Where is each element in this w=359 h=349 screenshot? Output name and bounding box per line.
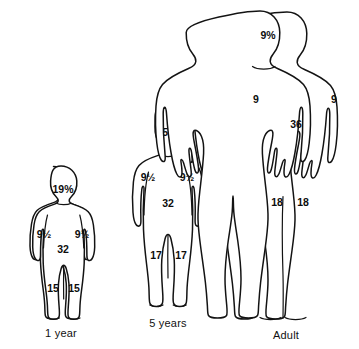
infant-arm-left-label: 9½ bbox=[75, 228, 90, 240]
child-trunk-label: 32 bbox=[162, 197, 174, 209]
infant-leg-right-label: 15 bbox=[47, 282, 59, 294]
child-arm-right-label: 9½ bbox=[141, 171, 156, 183]
infant-caption: 1 year bbox=[45, 327, 77, 339]
adult-head-label: 9% bbox=[260, 29, 276, 41]
infant-head-label: 19% bbox=[52, 183, 74, 195]
adult-arm-left-label: 9 bbox=[331, 93, 337, 105]
infant-leg-left-label: 15 bbox=[68, 282, 80, 294]
bsa-diagram-canvas: 19% 9½ 9½ 32 15 15 1 year 15% 9½ 9½ 32 1… bbox=[0, 0, 359, 349]
adult-trunk-label: 36 bbox=[290, 118, 302, 130]
infant-trunk-label: 32 bbox=[57, 243, 69, 255]
child-caption: 5 years bbox=[149, 317, 187, 329]
adult-arm-right-label: 9 bbox=[253, 93, 259, 105]
adult-leg-right-label: 18 bbox=[271, 196, 283, 208]
adult-caption: Adult bbox=[273, 329, 299, 341]
child-leg-left-label: 17 bbox=[175, 249, 187, 261]
figure-infant: 19% 9½ 9½ 32 15 15 1 year bbox=[30, 166, 95, 339]
adult-leg-left-label: 18 bbox=[297, 196, 309, 208]
child-leg-right-label: 17 bbox=[150, 249, 162, 261]
rule-of-nines-diagram: 19% 9½ 9½ 32 15 15 1 year 15% 9½ 9½ 32 1… bbox=[0, 0, 359, 349]
infant-arm-right-label: 9½ bbox=[37, 228, 52, 240]
